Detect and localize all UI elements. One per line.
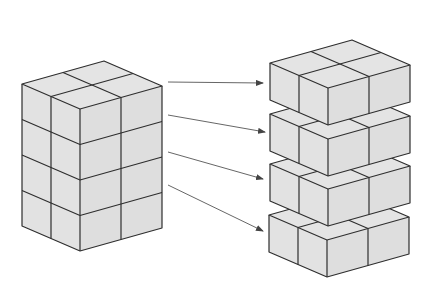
arrow-2 xyxy=(168,115,265,132)
arrows xyxy=(168,82,265,231)
diagram-canvas xyxy=(0,0,430,291)
cube-layer-diagram xyxy=(0,0,430,291)
arrow-4 xyxy=(168,185,263,231)
arrow-3 xyxy=(168,152,263,179)
source-block xyxy=(22,61,162,251)
separated-layers xyxy=(269,40,410,277)
arrow-1 xyxy=(168,82,263,83)
source-cube-block xyxy=(22,61,162,251)
